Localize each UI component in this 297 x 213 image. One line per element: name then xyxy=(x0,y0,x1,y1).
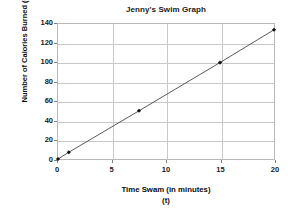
x-tick-mark xyxy=(221,160,222,163)
swim-graph-chart: Jenny's Swim Graph Number of Calories Bu… xyxy=(0,0,297,213)
y-tick-label: 60 xyxy=(29,97,53,105)
data-point-marker xyxy=(137,109,141,113)
y-tick-label: 80 xyxy=(29,78,53,86)
y-tick-label: 40 xyxy=(29,117,53,125)
x-tick-mark xyxy=(275,160,276,163)
x-axis-variable-label: (t) xyxy=(56,196,276,205)
x-axis-title: Time Swam (in minutes) xyxy=(56,185,276,194)
data-point-marker xyxy=(272,28,276,32)
y-axis-title: Number of Calories Burned (C) xyxy=(20,0,29,116)
data-point-marker xyxy=(67,150,71,154)
x-tick-mark xyxy=(166,160,167,163)
y-tick-label: 140 xyxy=(29,19,53,27)
x-tick-mark xyxy=(112,160,113,163)
plot-area xyxy=(57,23,275,160)
x-tick-label: 0 xyxy=(45,166,69,174)
x-tick-label: 5 xyxy=(100,166,124,174)
data-series-plot xyxy=(58,24,274,159)
y-tick-label: 120 xyxy=(29,39,53,47)
x-tick-label: 20 xyxy=(263,166,287,174)
chart-title: Jenny's Swim Graph xyxy=(56,5,276,14)
y-tick-label: 20 xyxy=(29,136,53,144)
y-tick-label: 100 xyxy=(29,58,53,66)
x-tick-label: 15 xyxy=(209,166,233,174)
y-tick-label: 0 xyxy=(29,156,53,164)
x-tick-label: 10 xyxy=(154,166,178,174)
series-line xyxy=(58,30,274,159)
data-point-marker xyxy=(218,61,222,65)
